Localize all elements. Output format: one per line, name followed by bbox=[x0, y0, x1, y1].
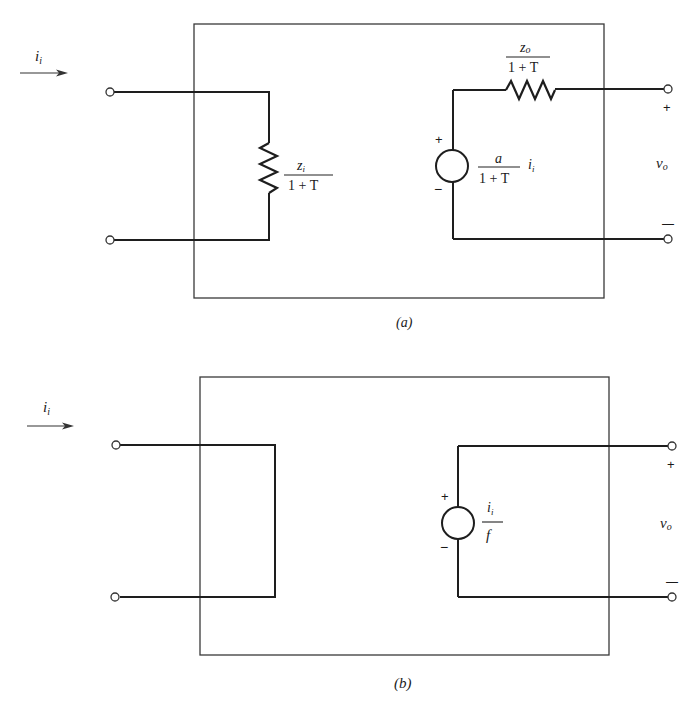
output-terminal-plus-a[interactable] bbox=[664, 85, 672, 93]
svg-text:1 + T: 1 + T bbox=[479, 171, 510, 186]
output-resistor-label-a: zo 1 + T bbox=[506, 40, 550, 75]
output-voltage-label-a: vo bbox=[656, 155, 668, 172]
panel-a: ii zi 1 + T zo 1 + T + bbox=[20, 24, 674, 331]
input-current-label-a: ii bbox=[35, 48, 42, 66]
dependent-voltage-source-a bbox=[436, 150, 468, 182]
input-terminal-top-a[interactable] bbox=[106, 88, 114, 96]
input-terminal-top-b[interactable] bbox=[112, 441, 120, 449]
source-gain-label-a: a 1 + T ii bbox=[478, 151, 535, 186]
caption-a: (a) bbox=[396, 315, 413, 331]
output-minus-sign-a: — bbox=[662, 217, 674, 231]
voltage-source-b bbox=[442, 507, 474, 539]
input-terminal-bottom-a[interactable] bbox=[106, 236, 114, 244]
svg-text:zo: zo bbox=[519, 40, 530, 55]
svg-text:1 + T: 1 + T bbox=[288, 178, 319, 193]
output-minus-sign-b: — bbox=[666, 575, 678, 589]
two-port-box-b bbox=[200, 377, 609, 655]
source-minus-b: − bbox=[440, 539, 448, 555]
panel-b: ii + − ii f + — vo (b) bbox=[27, 377, 678, 692]
source-plus-a: + bbox=[435, 132, 443, 147]
circuit-figure: ii zi 1 + T zo 1 + T + bbox=[0, 0, 698, 707]
output-voltage-label-b: vo bbox=[660, 515, 672, 532]
two-port-box-a bbox=[194, 24, 604, 298]
svg-text:f: f bbox=[486, 527, 492, 543]
input-terminal-bottom-b[interactable] bbox=[111, 593, 119, 601]
input-current-label-b: ii bbox=[43, 399, 50, 417]
source-minus-a: − bbox=[434, 181, 442, 197]
source-gain-label-b: ii f bbox=[482, 500, 503, 543]
svg-text:ii: ii bbox=[528, 157, 535, 174]
svg-text:zi: zi bbox=[296, 158, 305, 174]
svg-text:1 + T: 1 + T bbox=[508, 60, 539, 75]
input-current-arrow-a: ii bbox=[20, 48, 68, 77]
svg-text:a: a bbox=[495, 151, 502, 166]
caption-b: (b) bbox=[394, 675, 412, 692]
input-current-arrow-b: ii bbox=[27, 399, 74, 430]
source-plus-b: + bbox=[441, 489, 449, 504]
input-resistor-a bbox=[260, 143, 277, 193]
output-terminal-minus-b[interactable] bbox=[668, 593, 676, 601]
input-resistor-label-a: zi 1 + T bbox=[284, 158, 333, 193]
svg-text:ii: ii bbox=[487, 500, 494, 517]
output-resistor-a bbox=[506, 81, 555, 99]
output-plus-sign-b: + bbox=[667, 457, 675, 472]
output-terminal-plus-b[interactable] bbox=[668, 442, 676, 450]
output-terminal-minus-a[interactable] bbox=[664, 235, 672, 243]
output-plus-sign-a: + bbox=[663, 100, 671, 115]
